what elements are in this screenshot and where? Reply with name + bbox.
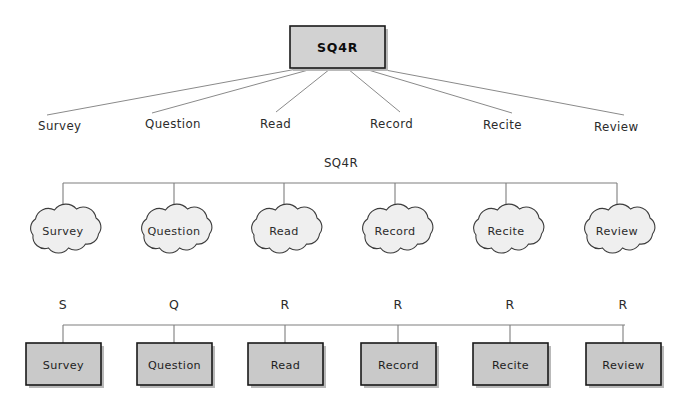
process-box-question[interactable]: Question [137, 343, 215, 388]
top-label-read: Read [260, 117, 291, 131]
fan-line-record [348, 69, 400, 112]
top-label-survey: Survey [38, 119, 81, 133]
cloud-survey[interactable]: Survey [31, 204, 101, 253]
cloud-review[interactable]: Review [585, 204, 655, 253]
top-label-review: Review [594, 120, 639, 134]
diagram-canvas: SQ4R Survey Question Read Record Recite … [0, 0, 675, 408]
cloud-recite[interactable]: Recite [474, 204, 544, 253]
top-fan-lines [47, 69, 624, 115]
letter-label-r-recite: R [505, 297, 514, 312]
process-box-label-record: Record [378, 359, 419, 372]
bottom-section: S Q R R R R Survey Ques [26, 297, 664, 388]
letter-label-s-survey: S [59, 297, 67, 312]
cloud-record[interactable]: Record [363, 204, 433, 253]
top-label-record: Record [370, 117, 413, 131]
cloud-label-review: Review [596, 225, 638, 238]
letter-label-q-question: Q [169, 297, 179, 312]
process-box-review[interactable]: Review [586, 343, 664, 388]
cloud-label-survey: Survey [42, 225, 83, 238]
cloud-label-read: Read [269, 225, 299, 238]
middle-section-title: SQ4R [324, 156, 358, 170]
cloud-question[interactable]: Question [142, 204, 212, 253]
cloud-label-question: Question [147, 225, 200, 238]
fan-line-survey [47, 69, 297, 115]
cloud-label-recite: Recite [487, 225, 524, 238]
root-box-label: SQ4R [317, 40, 358, 55]
fan-line-recite [365, 69, 512, 113]
fan-line-review [380, 69, 624, 115]
top-label-recite: Recite [483, 118, 522, 132]
process-box-label-read: Read [271, 359, 301, 372]
cloud-read[interactable]: Read [252, 204, 322, 253]
process-box-read[interactable]: Read [248, 343, 326, 388]
process-box-label-review: Review [602, 359, 644, 372]
cloud-label-record: Record [374, 225, 415, 238]
process-box-label-survey: Survey [43, 359, 84, 372]
top-section: SQ4R Survey Question Read Record Recite … [38, 26, 639, 134]
middle-section: SQ4R Survey Question Read [31, 156, 655, 253]
fan-line-read [276, 69, 330, 112]
top-label-question: Question [145, 117, 201, 131]
process-box-survey[interactable]: Survey [26, 343, 104, 388]
sq4r-diagram-svg: SQ4R Survey Question Read Record Recite … [0, 0, 675, 408]
process-box-recite[interactable]: Recite [473, 343, 551, 388]
process-box-record[interactable]: Record [361, 343, 439, 388]
letter-label-r-review: R [618, 297, 627, 312]
letter-label-r-read: R [280, 297, 289, 312]
process-box-label-recite: Recite [492, 359, 529, 372]
letter-label-r-record: R [393, 297, 402, 312]
process-box-label-question: Question [148, 359, 201, 372]
